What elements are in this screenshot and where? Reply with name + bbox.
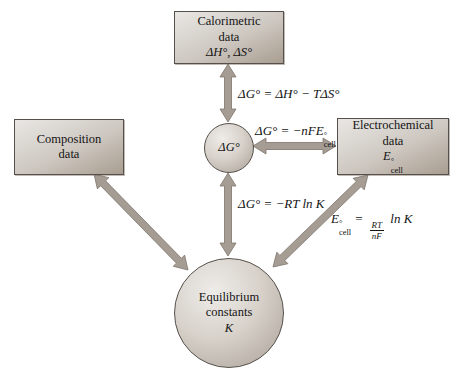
- electrochemical-line2: data: [383, 134, 404, 150]
- node-gibbs-free-energy: ΔG°: [204, 123, 254, 173]
- calorimetric-line1: Calorimetric: [197, 14, 260, 30]
- electrochemical-symbol: E°cell: [383, 149, 403, 174]
- equation-ecell-equilibrium: E°cell = RTnF ln K: [331, 211, 412, 241]
- equation-gibbs-equilibrium: ΔG° = −RT ln K: [238, 196, 324, 212]
- equilibrium-symbol: K: [225, 321, 233, 337]
- arrow-gibbs-equilibrium: [220, 173, 236, 256]
- node-composition-data: Composition data: [14, 119, 124, 175]
- calorimetric-symbols: ΔH°, ΔS°: [206, 45, 252, 61]
- calorimetric-line2: data: [219, 30, 240, 46]
- equilibrium-line1: Equilibrium: [199, 290, 259, 306]
- composition-line1: Composition: [37, 132, 102, 148]
- equilibrium-line2: constants: [206, 305, 253, 321]
- node-calorimetric-data: Calorimetric data ΔH°, ΔS°: [174, 11, 284, 64]
- equation-gibbs-electrochemical: ΔG° = −nFE°cell: [255, 123, 336, 149]
- gibbs-label: ΔG°: [218, 140, 239, 156]
- fraction-rt-nf: RTnF: [370, 220, 385, 242]
- arrow-calorimetric-gibbs: [220, 64, 236, 122]
- node-electrochemical-data: Electrochemical data E°cell: [337, 118, 449, 175]
- node-equilibrium-constants: Equilibrium constants K: [174, 258, 284, 368]
- composition-line2: data: [59, 147, 80, 163]
- arrow-composition-equilibrium: [94, 174, 188, 270]
- electrochemical-line1: Electrochemical: [352, 118, 433, 134]
- equation-gibbs-enthalpy: ΔG° = ΔH° − TΔS°: [238, 86, 340, 102]
- thermodynamic-relationships-diagram: Calorimetric data ΔH°, ΔS° Composition d…: [0, 0, 463, 383]
